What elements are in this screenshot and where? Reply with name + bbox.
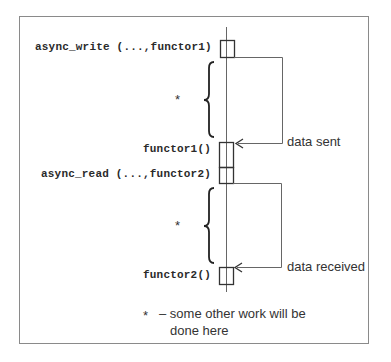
work-marker-2: * [175, 218, 180, 233]
functor2-call-label: functor2() [143, 269, 211, 281]
data-received-label: data received [287, 259, 365, 274]
async-write-box [221, 41, 235, 58]
async-read-call-label: async_read (...,functor2) [41, 168, 211, 180]
work-brace-2 [204, 188, 214, 263]
legend-text-line1: – some other work will be [159, 305, 306, 322]
async-write-call-label: async_write (...,functor1) [35, 41, 212, 53]
functor1-call-label: functor1() [143, 143, 211, 155]
data-sent-path [234, 58, 283, 144]
work-marker-1: * [175, 92, 180, 107]
legend-text: – some other work will be done here [159, 305, 306, 339]
legend-symbol: * [143, 308, 148, 323]
legend-text-line2: done here [159, 322, 306, 339]
data-received-path [233, 184, 282, 268]
work-brace-1 [204, 62, 214, 137]
data-sent-label: data sent [287, 134, 341, 149]
